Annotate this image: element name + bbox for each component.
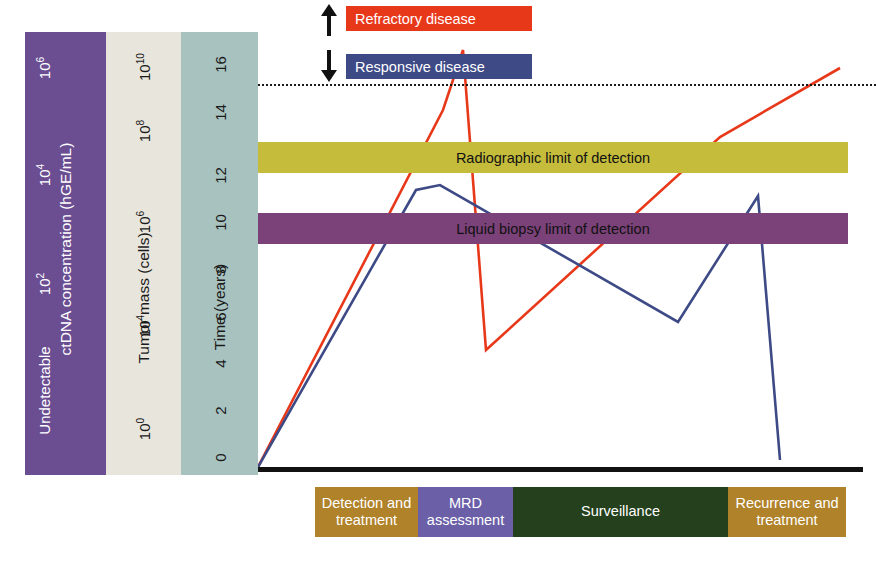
disease-trajectory-curves <box>258 32 876 475</box>
phase-recurrence-and-treatment: Recurrence and treatment <box>728 487 846 537</box>
axis-tick-time-16: 16 <box>212 39 229 91</box>
time-axis-baseline <box>258 467 863 472</box>
axis-tick-time-6: 6 <box>212 295 229 339</box>
axis-band-ctdna: ctDNA concentration (hGE/mL) Undetectabl… <box>25 32 106 475</box>
arrow-down-icon <box>320 48 338 82</box>
axis-tick-time-8: 8 <box>212 248 229 292</box>
care-phase-bar: Detection and treatment MRD assessment S… <box>315 487 846 537</box>
legend-label-refractory: Refractory disease <box>355 11 476 27</box>
legend-label-responsive: Responsive disease <box>355 59 485 75</box>
liquid-biopsy-limit-label: Liquid biopsy limit of detection <box>456 221 649 237</box>
axis-tick-ctdna-1e4: 104 <box>35 147 53 203</box>
liquid-biopsy-limit-bar: Liquid biopsy limit of detection <box>258 213 848 244</box>
axis-tick-time-14: 14 <box>212 87 229 139</box>
axis-tick-mass-1e6: 106 <box>135 196 153 248</box>
phase-detection-and-treatment: Detection and treatment <box>315 487 418 537</box>
axis-tick-mass-1e8: 108 <box>135 105 153 157</box>
axis-title-ctdna: ctDNA concentration (hGE/mL) <box>57 104 75 394</box>
axis-tick-time-10: 10 <box>212 197 229 249</box>
axis-tick-mass-1e10: 1010 <box>135 35 153 99</box>
axis-tick-mass-1e4: 104 <box>135 300 153 352</box>
axis-tick-mass-1e0: 100 <box>135 403 153 455</box>
axis-tick-time-0: 0 <box>212 436 229 480</box>
radiographic-limit-label: Radiographic limit of detection <box>456 150 650 166</box>
plot-area: Radiographic limit of detection Liquid b… <box>258 32 876 475</box>
phase-surveillance: Surveillance <box>513 487 728 537</box>
axis-tick-ctdna-1e6: 106 <box>35 40 53 96</box>
arrow-up-icon <box>320 4 338 38</box>
axis-tick-ctdna-undetectable: Undetectable <box>36 341 53 441</box>
legend-item-refractory-disease: Refractory disease <box>346 6 532 31</box>
refractory-disease-curve <box>258 50 840 467</box>
axis-tick-time-2: 2 <box>212 389 229 433</box>
axis-band-tumor-mass: Tumor mass (cells) 100 104 106 108 1010 <box>106 32 181 475</box>
legend-item-responsive-disease: Responsive disease <box>346 54 532 79</box>
axis-tick-ctdna-1e2: 102 <box>35 256 53 312</box>
figure-ctdna-dynamics: ctDNA concentration (hGE/mL) Undetectabl… <box>0 0 876 571</box>
phase-mrd-assessment: MRD assessment <box>418 487 513 537</box>
axis-band-time: Time (years) 0 2 4 6 8 10 12 14 16 <box>181 32 258 475</box>
axis-tick-time-4: 4 <box>212 342 229 386</box>
legend: Refractory disease Responsive disease <box>318 4 548 82</box>
axis-tick-time-12: 12 <box>212 150 229 202</box>
radiographic-limit-bar: Radiographic limit of detection <box>258 142 848 173</box>
threshold-dotted-line <box>258 84 876 86</box>
